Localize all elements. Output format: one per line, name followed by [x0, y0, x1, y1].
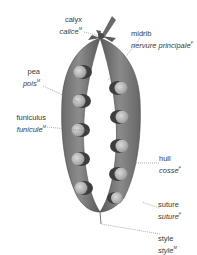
label-calyx-fr: caliceM	[52, 25, 82, 36]
label-style-fr: styleM	[158, 244, 177, 255]
label-pea: pea poisM	[10, 68, 40, 88]
label-midrib: midrib nervure principaleF	[131, 30, 193, 50]
label-funiculus-fr: funiculeM	[4, 123, 46, 134]
label-style: style styleM	[158, 235, 177, 255]
label-pea-fr: poisM	[10, 77, 40, 88]
calyx-shape	[88, 16, 116, 42]
label-suture: suture sutureF	[158, 201, 181, 221]
label-calyx: calyx caliceM	[52, 16, 82, 36]
label-hull: hull cosseF	[159, 155, 181, 175]
label-suture-fr: sutureF	[158, 210, 181, 221]
label-funiculus: funiculus funiculeM	[4, 114, 46, 134]
label-midrib-fr: nervure principaleF	[131, 39, 193, 50]
label-hull-fr: cosseF	[159, 164, 181, 175]
